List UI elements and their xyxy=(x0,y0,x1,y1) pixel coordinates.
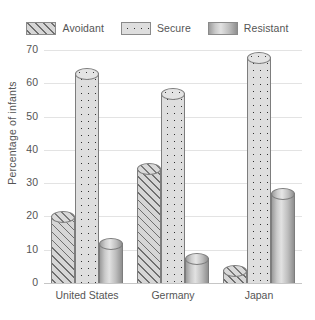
bar-resistant-germany xyxy=(185,258,209,283)
y-axis-tick-label: 0 xyxy=(2,276,38,288)
bar-resistant-united-states xyxy=(99,243,123,283)
x-axis-tick-label: Germany xyxy=(151,289,194,301)
legend-item-secure: Secure xyxy=(121,22,191,35)
bar-avoidant-germany xyxy=(137,168,161,283)
plot-area xyxy=(44,50,302,283)
y-axis-tick-label: 30 xyxy=(2,176,38,188)
y-axis-tick-label: 40 xyxy=(2,143,38,155)
bar-secure-germany xyxy=(161,93,185,283)
x-axis-tick-label: Japan xyxy=(245,289,274,301)
y-axis-tick-labels: 010203040506070 xyxy=(0,50,44,283)
bar-secure-japan xyxy=(247,57,271,283)
legend-swatch-resistant xyxy=(208,22,238,35)
y-axis-tick-label: 20 xyxy=(2,209,38,221)
bar-group-united-states xyxy=(51,50,123,283)
gridline xyxy=(44,283,302,284)
bar-avoidant-japan xyxy=(223,270,247,283)
bar-cap-icon xyxy=(271,188,295,200)
legend-item-resistant: Resistant xyxy=(208,22,289,35)
legend-swatch-avoidant xyxy=(26,22,56,35)
bar-group-germany xyxy=(137,50,209,283)
bar-cap-icon xyxy=(247,52,271,64)
y-axis-tick-label: 60 xyxy=(2,76,38,88)
bar-cap-icon xyxy=(51,211,75,223)
y-axis-tick-label: 10 xyxy=(2,243,38,255)
bar-cap-icon xyxy=(137,163,161,175)
y-axis-tick-label: 70 xyxy=(2,43,38,55)
bar-cap-icon xyxy=(223,265,247,277)
bar-chart: Avoidant Secure Resistant Percentage of … xyxy=(0,0,315,320)
bar-resistant-japan xyxy=(271,193,295,283)
y-axis-tick-label: 50 xyxy=(2,110,38,122)
bar-group-japan xyxy=(223,50,295,283)
bar-secure-united-states xyxy=(75,73,99,283)
bar-cap-icon xyxy=(99,238,123,250)
legend-label-secure: Secure xyxy=(157,22,191,34)
chart-legend: Avoidant Secure Resistant xyxy=(0,16,315,40)
bar-avoidant-united-states xyxy=(51,216,75,283)
x-axis-tick-label: United States xyxy=(55,289,118,301)
x-axis-tick-labels: United StatesGermanyJapan xyxy=(44,289,302,309)
legend-label-avoidant: Avoidant xyxy=(62,22,103,34)
legend-item-avoidant: Avoidant xyxy=(26,22,103,35)
bar-cap-icon xyxy=(75,68,99,80)
legend-swatch-secure xyxy=(121,22,151,35)
bar-cap-icon xyxy=(161,88,185,100)
bar-cap-icon xyxy=(185,253,209,265)
legend-label-resistant: Resistant xyxy=(244,22,289,34)
